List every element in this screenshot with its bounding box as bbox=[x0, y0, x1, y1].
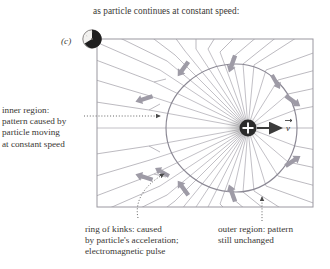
gray-arrow bbox=[174, 178, 192, 198]
inner-region-line-2: pattern caused by bbox=[2, 116, 94, 127]
inner-region-line-4: at constant speed bbox=[2, 139, 94, 150]
top-caption: as particle continues at constant speed: bbox=[93, 6, 239, 17]
ring-of-kinks-line-1: ring of kinks: caused bbox=[85, 224, 215, 235]
inner-region-caption: inner region: pattern caused by particle… bbox=[2, 105, 94, 150]
ring-of-kinks-line-2: by particle's acceleration; bbox=[85, 235, 215, 246]
inner-region-line-1: inner region: bbox=[2, 105, 94, 116]
gray-arrow bbox=[153, 164, 171, 179]
diagram-frame bbox=[97, 39, 313, 207]
panel-label: (c) bbox=[61, 36, 71, 47]
outer-region-line-2: still unchanged bbox=[218, 235, 328, 246]
inner-region-line-3: particle moving bbox=[2, 127, 94, 138]
gray-arrow bbox=[134, 170, 154, 184]
gray-arrow bbox=[283, 92, 303, 110]
charged-particle bbox=[240, 120, 257, 137]
outer-region-line-1: outer region: pattern bbox=[218, 224, 328, 235]
outer-region-caption: outer region: pattern still unchanged bbox=[218, 224, 328, 246]
clock-icon bbox=[83, 30, 102, 48]
gray-arrow bbox=[283, 152, 303, 170]
ring-of-kinks-caption: ring of kinks: caused by particle's acce… bbox=[85, 224, 215, 258]
velocity-vector-label: v bbox=[286, 123, 290, 133]
ring-of-kinks-line-3: electromagnetic pulse bbox=[85, 246, 215, 257]
field-line-group bbox=[96, 36, 316, 220]
